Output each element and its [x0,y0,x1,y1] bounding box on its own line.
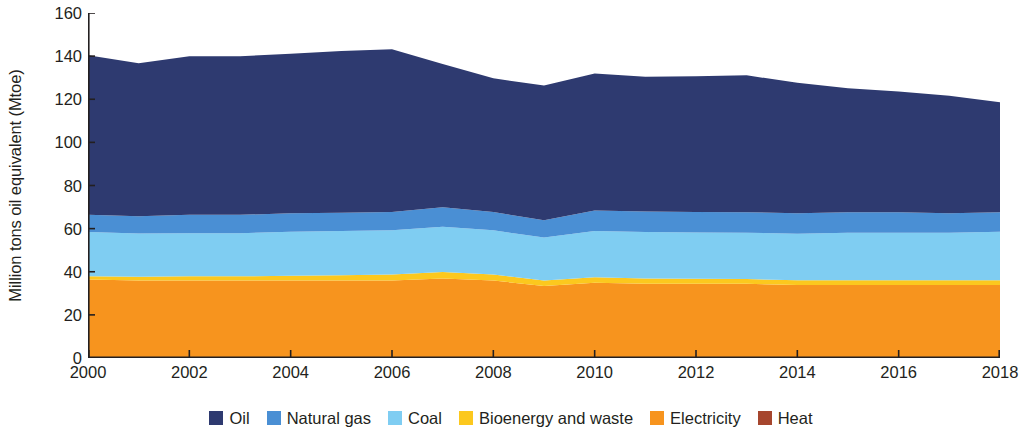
legend-item-oil[interactable]: Oil [209,410,249,427]
legend-label: Natural gas [287,410,371,427]
y-axis-title: Million tons oil equivalent (Mtoe) [0,0,30,370]
y-tick-label: 100 [36,134,82,151]
y-axis-title-text: Million tons oil equivalent (Mtoe) [6,69,25,301]
legend-label: Electricity [670,410,741,427]
x-tick-label: 2010 [576,364,613,381]
legend-item-heat[interactable]: Heat [758,410,813,427]
legend-swatch-icon [459,411,473,425]
legend-item-coal[interactable]: Coal [388,410,442,427]
legend-swatch-icon [388,411,402,425]
legend-item-electricity[interactable]: Electricity [650,410,741,427]
legend-swatch-icon [650,411,664,425]
x-axis-tick-labels: 2000200220042006200820102012201420162018 [88,364,1000,390]
area-band-oil [88,49,1000,220]
x-tick-label: 2014 [779,364,816,381]
legend-label: Heat [778,410,813,427]
legend-swatch-icon [758,411,772,425]
y-tick-label: 140 [36,48,82,65]
y-tick-label: 20 [36,307,82,324]
x-tick-label: 2012 [678,364,715,381]
area-band-electricity [88,278,1000,357]
legend-item-natural-gas[interactable]: Natural gas [267,410,371,427]
x-tick-label: 2000 [70,364,107,381]
y-axis-tick-labels: 020406080100120140160 [30,13,82,358]
legend-item-bioenergy-and-waste[interactable]: Bioenergy and waste [459,410,633,427]
legend-label: Oil [229,410,249,427]
y-tick-label: 160 [36,5,82,22]
legend-label: Bioenergy and waste [479,410,633,427]
x-tick-label: 2002 [171,364,208,381]
x-tick-label: 2016 [880,364,917,381]
legend-label: Coal [408,410,442,427]
legend-swatch-icon [267,411,281,425]
plot-area [88,13,1000,358]
y-tick-label: 40 [36,264,82,281]
x-tick-label: 2008 [475,364,512,381]
y-tick-label: 120 [36,91,82,108]
y-tick-label: 60 [36,220,82,237]
stacked-area-chart: Million tons oil equivalent (Mtoe) 02040… [0,0,1022,433]
y-tick-label: 80 [36,177,82,194]
area-series-svg [88,13,1000,358]
legend-swatch-icon [209,411,223,425]
x-tick-label: 2004 [272,364,309,381]
chart-legend: OilNatural gasCoalBioenergy and wasteEle… [0,406,1022,430]
x-tick-label: 2018 [982,364,1019,381]
x-tick-label: 2006 [374,364,411,381]
